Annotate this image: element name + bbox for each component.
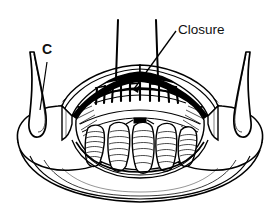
lobe	[132, 122, 154, 173]
lobe	[156, 123, 177, 171]
closure-label: Closure	[178, 22, 225, 37]
c-label: C	[42, 41, 52, 57]
surgical-illustration-figure: Closure C	[0, 0, 279, 217]
illustration-canvas: Closure C	[0, 0, 279, 217]
lobe	[108, 122, 130, 171]
